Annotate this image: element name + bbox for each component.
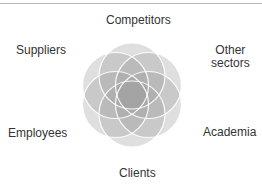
label-clients: Clients (119, 167, 156, 180)
label-other-sectors-line2: sectors (211, 57, 250, 70)
label-employees: Employees (8, 127, 67, 140)
label-academia: Academia (203, 126, 256, 139)
stakeholder-circles-diagram (0, 0, 262, 189)
circles-group (83, 43, 182, 147)
label-other-sectors: Other sectors (211, 44, 250, 70)
label-competitors: Competitors (106, 14, 171, 27)
label-suppliers: Suppliers (16, 44, 66, 57)
